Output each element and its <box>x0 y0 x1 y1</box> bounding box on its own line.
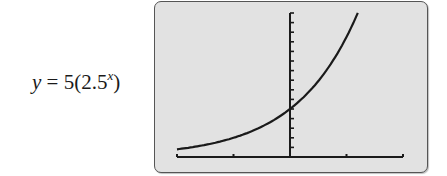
axes <box>177 13 403 157</box>
exponential-curve <box>177 13 358 149</box>
function-graph <box>0 0 447 176</box>
